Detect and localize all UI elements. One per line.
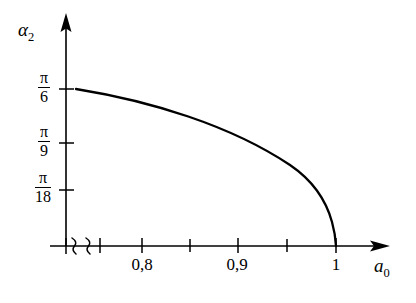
y-axis-label: α2 (18, 20, 34, 43)
y-tick-pi-18-numerator: π (35, 170, 51, 188)
y-tick-pi-9-denominator: 9 (38, 142, 50, 159)
y-tick-pi-18-denominator: 18 (35, 188, 51, 205)
y-tick-label-pi-9: π 9 (27, 124, 61, 159)
y-axis-label-symbol: α (18, 19, 28, 40)
boundary-curve (76, 89, 336, 246)
x-axis-label-symbol: a (374, 255, 384, 276)
y-tick-pi-9-numerator: π (38, 124, 50, 142)
y-tick-pi-6-numerator: π (38, 70, 50, 88)
y-tick-label-pi-18: π 18 (23, 170, 63, 205)
chart-figure: α2 a0 π 6 π 9 π 18 0,8 0,9 1 (0, 0, 416, 303)
x-tick-label-0-9: 0,9 (217, 256, 257, 273)
y-axis-label-subscript: 2 (28, 30, 34, 44)
x-tick-label-0-8: 0,8 (122, 256, 162, 273)
y-tick-pi-6-denominator: 6 (38, 88, 50, 105)
y-tick-label-pi-6: π 6 (27, 70, 61, 105)
x-tick-label-1: 1 (325, 256, 347, 273)
x-axis-label-subscript: 0 (384, 266, 390, 280)
plot-canvas (0, 0, 416, 303)
x-axis-label: a0 (374, 256, 390, 279)
